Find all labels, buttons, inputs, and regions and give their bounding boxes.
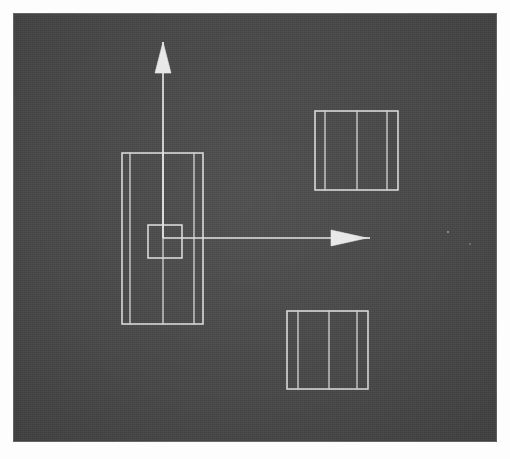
speck-icon xyxy=(469,243,471,245)
vertical-axis-arrow xyxy=(155,42,171,238)
bottom-right-view-group xyxy=(287,311,368,389)
bottom-right-view-outer-rect xyxy=(287,311,368,389)
front-view-feature-rect xyxy=(148,225,182,258)
front-view-feature-group xyxy=(148,225,182,258)
speck-icon xyxy=(447,231,449,233)
scan-artifacts xyxy=(447,231,471,245)
figure-root xyxy=(0,0,510,459)
top-right-view-group xyxy=(315,111,398,190)
drawing-canvas xyxy=(13,13,497,442)
technical-drawing-svg xyxy=(13,13,497,442)
